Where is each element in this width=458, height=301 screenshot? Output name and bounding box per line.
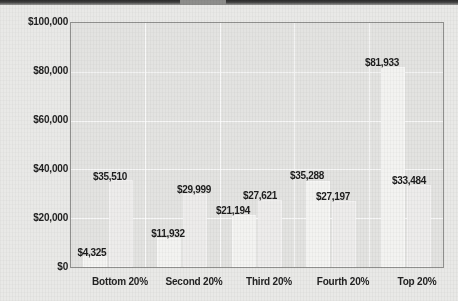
data-label-bottom20-series1: $4,325 (62, 247, 122, 258)
bar-top20-series1 (381, 67, 405, 267)
x-category-label-top20: Top 20% (379, 276, 455, 287)
bar-third20-series1 (232, 215, 256, 267)
bar-second20-series1 (157, 238, 181, 267)
scan-edge-nick (180, 0, 226, 5)
chart-page: $100,000 $80,000 $60,000 $40,000 $20,000… (0, 0, 458, 301)
bar-top20-series2 (407, 185, 431, 267)
data-label-bottom20-series2: $35,510 (80, 171, 140, 182)
data-label-fourth20-series1: $35,288 (277, 170, 337, 181)
bar-fourth20-series2 (332, 201, 356, 267)
y-tick-label-60000: $60,000 (2, 114, 68, 125)
y-tick-label-100000: $100,000 (2, 16, 68, 27)
data-label-top20-series1: $81,933 (352, 57, 412, 68)
data-label-second20-series1: $11,932 (138, 228, 198, 239)
x-category-label-third20: Third 20% (231, 276, 307, 287)
y-tick-label-80000: $80,000 (2, 65, 68, 76)
x-category-label-bottom20: Bottom 20% (82, 276, 158, 287)
data-label-second20-series2: $29,999 (164, 184, 224, 195)
y-tick-label-0: $0 (2, 261, 68, 272)
gridline-v-3 (294, 23, 295, 267)
data-label-fourth20-series2: $27,197 (303, 191, 363, 202)
data-label-third20-series2: $27,621 (230, 190, 290, 201)
x-category-label-second20: Second 20% (156, 276, 232, 287)
gridline-v-2 (220, 23, 221, 267)
scan-edge-band (0, 0, 458, 5)
x-category-label-fourth20: Fourth 20% (305, 276, 381, 287)
data-label-top20-series2: $33,484 (379, 175, 439, 186)
y-tick-label-20000: $20,000 (2, 212, 68, 223)
data-label-third20-series1: $21,194 (203, 205, 263, 216)
y-axis: $100,000 $80,000 $60,000 $40,000 $20,000… (0, 0, 68, 301)
y-tick-label-40000: $40,000 (2, 163, 68, 174)
